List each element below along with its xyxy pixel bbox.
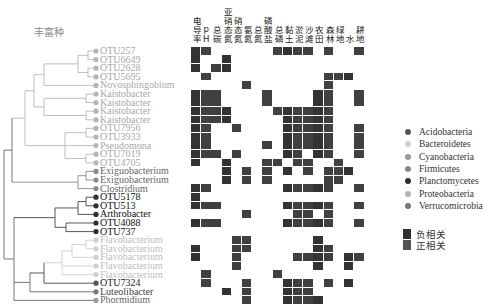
heatmap-cell [293,150,302,158]
heatmap-cell [303,133,312,141]
legend-label: Proteobacteria [419,189,474,199]
heatmap-cell [262,98,271,106]
tip-dot-icon [93,57,98,62]
heatmap-cell [273,107,282,115]
heatmap-cell [201,202,210,210]
heatmap-cell [334,159,343,167]
legend-item: Verrucomicrobia [405,200,483,212]
heatmap-cell [242,81,251,89]
heatmap-cell [313,133,322,141]
heatmap-cell [232,253,241,261]
column-header: 硝态氮 [232,2,242,44]
column-header: 耕地 [354,2,364,44]
heatmap-cell [201,116,210,124]
heatmap-cell [283,141,292,149]
heatmap-cell [273,270,282,278]
heatmap-cell [354,219,363,227]
heatmap-cell [354,141,363,149]
column-header: 电导率 [191,2,201,44]
legend-item: Cyanobacteria [405,151,483,163]
heatmap-cell [324,210,333,218]
heatmap-cell [211,150,220,158]
row-label: Phormidium [100,295,150,305]
heatmap-cell [293,210,302,218]
heatmap-cell [283,124,292,132]
heatmap-cell [211,219,220,227]
column-header: 淤泥 [293,2,303,44]
heatmap-cell [354,253,363,261]
heatmap-cell [201,98,210,106]
heatmap-cell [283,107,292,115]
heatmap-cell [324,133,333,141]
heatmap-cell [222,107,231,115]
heatmap-cell [313,262,322,270]
heatmap-cell [232,236,241,244]
heatmap-cell [222,288,231,296]
tip-dot-icon [93,83,98,88]
heatmap-cell [354,184,363,192]
heatmap-cell [313,296,322,304]
heatmap-cell [201,184,210,192]
heatmap-cell [201,47,210,55]
correlation-legend: 负相关正相关 [403,228,446,250]
heatmap-cell [262,176,271,184]
heatmap-cell [303,124,312,132]
legend-label: Bacteroidetes [419,139,471,149]
tip-dot-icon [93,143,98,148]
heatmap-cell [242,176,251,184]
correlation-label: 正相关 [416,238,446,252]
heatmap-cell [324,219,333,227]
heatmap-cell [211,202,220,210]
heatmap-cell [232,124,241,132]
heatmap-cell [222,116,231,124]
legend-dot-icon [405,154,411,160]
heatmap-cell [324,150,333,158]
heatmap-cell [283,296,292,304]
correlation-legend-item: 正相关 [403,239,446,250]
tip-dot-icon [93,126,98,131]
heatmap-cell [354,98,363,106]
tip-dot-icon [93,281,98,286]
legend-item: Firmicutes [405,163,483,175]
tip-dot-icon [93,272,98,277]
heatmap-cell [201,141,210,149]
heatmap-cell [324,47,333,55]
tip-dot-icon [93,152,98,157]
heatmap-cell [242,288,251,296]
heatmap-cell [303,184,312,192]
heatmap-cell [354,47,363,55]
heatmap-cell [293,47,302,55]
heatmap-cell [313,202,322,210]
heatmap-cell [324,90,333,98]
heatmap-cell [324,116,333,124]
heatmap-cell [283,167,292,175]
heatmap-cell [191,193,200,201]
legend-label: Verrucomicrobia [419,201,483,211]
heatmap-cell [222,55,231,63]
legend-label: Acidobacteria [419,127,472,137]
tip-dot-icon [93,186,98,191]
heatmap-cell [191,150,200,158]
heatmap-cell [344,279,353,287]
heatmap-cell [354,90,363,98]
heatmap-cell [191,90,200,98]
heatmap-cell [324,245,333,253]
legend-item: Bacteroidetes [405,138,483,150]
heatmap-cell [283,202,292,210]
heatmap-cell [211,98,220,106]
heatmap-cell [303,107,312,115]
heatmap-cell [354,150,363,158]
tip-dot-icon [93,100,98,105]
heatmap-cell [242,167,251,175]
heatmap-cell [303,219,312,227]
legend-label: Cyanobacteria [419,152,474,162]
heatmap-cell [262,141,271,149]
heatmap-cell [242,279,251,287]
heatmap-cell [354,202,363,210]
heatmap-cell [313,150,322,158]
heatmap-cell [232,262,241,270]
heatmap-cell [293,159,302,167]
heatmap-cell [303,288,312,296]
column-header: 农田 [313,2,323,44]
tip-dot-icon [93,298,98,303]
